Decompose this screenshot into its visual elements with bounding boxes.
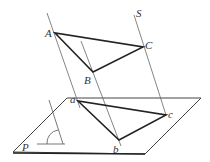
- label-A: A: [44, 27, 52, 39]
- projection-line-b: [81, 41, 121, 146]
- angle-normal-line: [49, 100, 63, 144]
- label-P: P: [21, 141, 29, 153]
- projection-diagram: A B C S a b c P: [0, 0, 210, 162]
- angle-arc: [47, 130, 58, 144]
- label-b: b: [113, 143, 119, 155]
- label-S: S: [136, 7, 142, 19]
- label-B: B: [84, 74, 91, 86]
- plane-p-bottom-edge: [13, 153, 145, 154]
- projection-line-s: [134, 15, 166, 115]
- triangle-abc-projection: [78, 101, 166, 140]
- triangle-abc: [55, 33, 143, 72]
- diagram-canvas: A B C S a b c P: [0, 0, 210, 162]
- label-c: c: [168, 108, 173, 120]
- label-a: a: [70, 93, 76, 105]
- label-C: C: [145, 39, 153, 51]
